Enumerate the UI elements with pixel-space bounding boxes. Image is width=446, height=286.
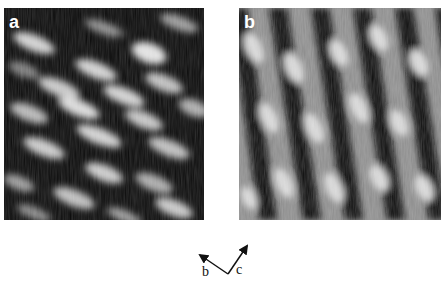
panel-label-a: a: [9, 12, 19, 33]
stm-texture-a: [4, 8, 204, 220]
stm-image-panel-a: a: [4, 8, 204, 220]
axis-label-b: b: [202, 264, 209, 280]
axis-label-c: c: [236, 262, 242, 278]
stm-texture-b: [239, 8, 441, 220]
stm-image-panel-b: b: [239, 8, 441, 220]
panel-label-b: b: [244, 12, 255, 33]
